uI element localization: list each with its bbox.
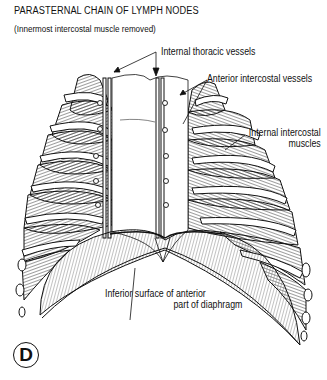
label-diaphragm-line2: part of diaphragm (173, 299, 242, 310)
panel-letter-badge: D (13, 342, 39, 368)
label-diaphragm-line1: Inferior surface of anterior (105, 288, 206, 299)
label-internal-thoracic-vessels: Internal thoracic vessels (161, 46, 255, 57)
label-internal-intercostal-line2: muscles (289, 138, 321, 149)
label-internal-intercostal-line1: Internal intercostal (249, 127, 321, 138)
label-anterior-intercostal-vessels: Anterior intercostal vessels (207, 73, 312, 84)
rib-cage-illustration (0, 0, 327, 380)
